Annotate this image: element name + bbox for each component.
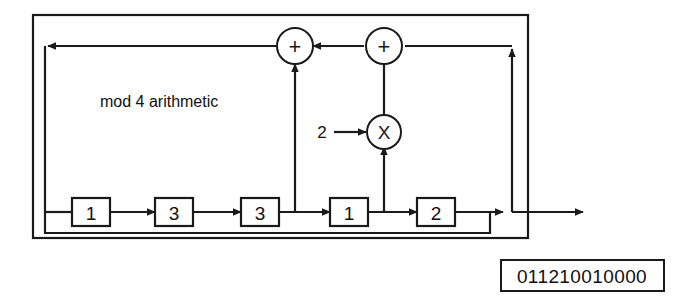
- register-value: 1: [344, 203, 355, 224]
- register-reg-2[interactable]: 3: [155, 198, 193, 226]
- register-value: 2: [431, 203, 442, 224]
- multiplier[interactable]: X: [367, 115, 401, 149]
- register-reg-1[interactable]: 1: [72, 198, 110, 226]
- adder-plus-icon: +: [378, 34, 391, 59]
- output-sequence: 011210010000: [501, 260, 664, 291]
- register-value: 3: [255, 203, 266, 224]
- mod-arithmetic-label: mod 4 arithmetic: [100, 93, 218, 110]
- adder-left[interactable]: +: [277, 28, 313, 64]
- diagram-canvas: 1 3 3 1 2 + + X 2: [0, 0, 689, 301]
- register-reg-4[interactable]: 1: [330, 198, 368, 226]
- adder-right[interactable]: +: [366, 28, 402, 64]
- multiplier-coefficient-label: 2: [317, 123, 326, 142]
- register-reg-5[interactable]: 2: [417, 198, 455, 226]
- register-value: 1: [86, 203, 97, 224]
- multiplier-x-icon: X: [378, 122, 391, 143]
- lfsr-diagram: 1 3 3 1 2 + + X 2: [0, 0, 689, 301]
- output-sequence-text: 011210010000: [517, 266, 647, 287]
- register-value: 3: [169, 203, 180, 224]
- register-reg-3[interactable]: 3: [241, 198, 279, 226]
- adder-plus-icon: +: [289, 34, 302, 59]
